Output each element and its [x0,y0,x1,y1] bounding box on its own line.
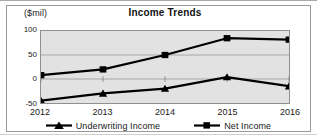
bottom-divider [0,134,317,135]
x-tick-label: 2013 [83,107,123,117]
plot-area [40,30,290,104]
chart-screenshot: ($mil) Income Trends 100500-50 201220132… [0,0,317,135]
square-marker-icon [194,120,220,131]
chart-legend: Underwriting IncomeNet Income [6,119,311,132]
y-tick-label: 100 [3,26,37,34]
y-tick-label: 0 [3,75,37,83]
legend-entry[interactable]: Underwriting Income [46,120,160,131]
x-tick-label: 2016 [270,107,310,117]
y-tick-label: 50 [3,51,37,59]
legend-label: Net Income [224,121,271,131]
series-markers [41,35,289,103]
x-axis-tick-labels: 20122013201420152016 [40,107,290,119]
chart-title: Income Trends [40,7,290,18]
x-tick-label: 2014 [145,107,185,117]
legend-entry[interactable]: Net Income [194,120,271,131]
top-divider [0,0,317,1]
triangle-marker-icon [46,120,72,131]
gridlines [41,55,289,79]
y-axis-tick-labels: 100500-50 [0,30,37,104]
legend-label: Underwriting Income [76,121,160,131]
x-tick-label: 2012 [20,107,60,117]
x-tick-label: 2015 [208,107,248,117]
plot-svg [41,31,289,103]
